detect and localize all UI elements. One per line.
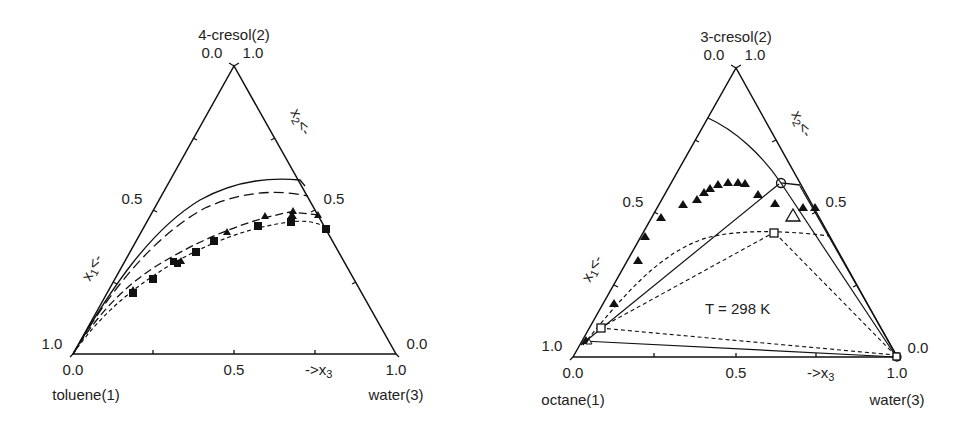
x1-axis-label-right: x1<- <box>578 252 608 285</box>
left-bottom-tick-right: 1.0 <box>542 337 563 354</box>
triangle-frame-left <box>73 66 396 354</box>
top-tick-1-left: 1.0 <box>243 44 264 61</box>
x2-axis-label-right: x2<- <box>787 107 817 140</box>
exp-squares-left <box>129 218 330 297</box>
exp-filled-triangles-right <box>581 178 820 344</box>
bottom-tick-05-left: 0.5 <box>224 361 245 378</box>
exp-open-triangle-right <box>786 209 800 221</box>
bottom-tick-0-right: 0.0 <box>563 364 584 381</box>
calc-open-square-water-right <box>893 353 900 360</box>
binodal-dashed-right <box>583 232 830 345</box>
top-tick-0-left: 0.0 <box>202 44 223 61</box>
component-3-label-right: water(3) <box>868 391 924 408</box>
component-2-label-left: 4-cresol(2) <box>198 26 270 43</box>
bottom-tick-1-left: 1.0 <box>386 361 407 378</box>
binodal-mediumdash-left <box>73 212 320 354</box>
binodal-solid-right <box>708 118 800 185</box>
x1-axis-label-left: x1<- <box>78 251 108 284</box>
left-mid-tick-left: 0.5 <box>122 190 143 207</box>
right-mid-tick-left: 0.5 <box>324 190 345 207</box>
right-mid-tick-right: 0.5 <box>826 193 847 210</box>
component-3-label-left: water(3) <box>367 386 423 403</box>
ternary-chart-left: 4-cresol(2) 0.0 1.0 0.5 0.5 1.0 0.0 0.0 … <box>42 26 428 403</box>
left-bottom-tick-left: 1.0 <box>42 335 63 352</box>
component-1-label-left: toluene(1) <box>52 386 120 403</box>
ticks-left <box>70 63 399 357</box>
x3-axis-label-right: ->x3 <box>807 364 834 383</box>
x3-axis-label-left: ->x3 <box>305 361 332 380</box>
temperature-annotation: T = 298 K <box>705 300 770 317</box>
right-bottom-tick-right: 0.0 <box>908 339 929 356</box>
component-1-label-right: octane(1) <box>541 391 604 408</box>
binodal-longdash-left <box>73 192 308 354</box>
top-tick-0-right: 0.0 <box>704 46 725 63</box>
calc-open-square-right <box>770 229 778 237</box>
top-tick-1-right: 1.0 <box>745 46 766 63</box>
calc-open-square-octane-right <box>597 324 605 332</box>
ternary-chart-right: T = 298 K 3-cresol(2) 0.0 1.0 0.5 0.5 1.… <box>541 28 928 408</box>
x2-axis-label-left: x2<- <box>286 105 316 138</box>
component-2-label-right: 3-cresol(2) <box>700 28 772 45</box>
left-mid-tick-right: 0.5 <box>623 193 644 210</box>
bottom-tick-05-right: 0.5 <box>726 364 747 381</box>
binodal-solid-left <box>73 179 305 354</box>
right-bottom-tick-left: 0.0 <box>407 335 428 352</box>
bottom-tick-1-right: 1.0 <box>887 364 908 381</box>
figure: 4-cresol(2) 0.0 1.0 0.5 0.5 1.0 0.0 0.0 … <box>0 0 959 425</box>
bottom-tick-0-left: 0.0 <box>63 361 84 378</box>
